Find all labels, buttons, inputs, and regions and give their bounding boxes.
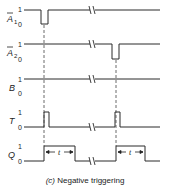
svg-text:0: 0 (18, 158, 22, 165)
svg-text:0: 0 (18, 21, 22, 28)
signal-label-t: T (9, 116, 16, 126)
trigger-guides (44, 25, 116, 146)
time-break-marks (89, 6, 95, 165)
svg-text:1: 1 (18, 76, 22, 83)
svg-text:0: 0 (18, 56, 22, 63)
signal-label-b: B (9, 83, 15, 93)
signal-label-a2: A 2 (6, 47, 18, 59)
level-labels: 10 10 10 10 10 (18, 6, 22, 165)
pulse-width-indicator-2: t (118, 148, 143, 157)
waveform-a2 (24, 44, 160, 59)
svg-text:1: 1 (18, 143, 22, 150)
svg-text:A: A (6, 48, 13, 58)
caption-text: Negative triggering (57, 176, 124, 185)
svg-text:t: t (129, 148, 132, 157)
waveform-t (24, 112, 160, 127)
signal-label-q: Q (8, 150, 15, 160)
pulse-width-indicator-1: t (46, 148, 73, 157)
waveform-a1 (24, 10, 160, 24)
svg-text:Q: Q (8, 150, 15, 160)
caption-label: (c) (46, 176, 55, 185)
svg-text:1: 1 (18, 41, 22, 48)
svg-text:B: B (9, 83, 15, 93)
svg-text:1: 1 (18, 6, 22, 13)
svg-text:0: 0 (18, 124, 22, 131)
svg-text:1: 1 (18, 109, 22, 116)
svg-text:0: 0 (18, 90, 22, 97)
svg-text:A: A (6, 14, 13, 24)
figure-caption: (c) Negative triggering (0, 176, 170, 185)
signal-label-a1: A 1 (6, 13, 18, 25)
timing-diagram: A 1 A 2 B T Q 10 10 10 10 10 (0, 0, 170, 187)
svg-text:t: t (58, 148, 61, 157)
svg-text:T: T (9, 116, 16, 126)
